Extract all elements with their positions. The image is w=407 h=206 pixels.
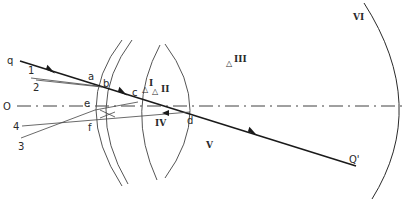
label-Q-prime: Q' <box>349 154 360 165</box>
main-ray <box>20 61 356 166</box>
region-VI: VI <box>352 12 364 22</box>
label-b: b <box>103 78 109 89</box>
triangle-icon: △ <box>226 59 233 68</box>
region-III: III <box>234 54 247 64</box>
label-a: a <box>88 71 94 82</box>
lens-front-arc <box>142 45 160 180</box>
label-c: c <box>132 87 138 98</box>
label-1: 1 <box>28 65 34 76</box>
region-V: V <box>205 140 214 150</box>
inner-ray-cross-2 <box>100 112 115 118</box>
region-II: II <box>161 84 169 94</box>
retina-arc <box>364 3 399 199</box>
reflected-ray-3 <box>21 110 95 138</box>
region-IV: IV <box>155 118 167 128</box>
label-f: f <box>88 122 92 133</box>
arrow-icon <box>162 110 169 116</box>
optical-diagram: q Q' O a b c d e f 1 2 3 4 △ I △ II △ II… <box>0 0 407 206</box>
label-d: d <box>187 115 193 126</box>
inner-ray-cross-1 <box>100 110 115 117</box>
triangle-icon: △ <box>152 87 159 96</box>
cornea-back-arc <box>106 40 132 184</box>
label-2: 2 <box>33 82 39 93</box>
label-3: 3 <box>18 141 24 152</box>
label-O: O <box>3 101 11 112</box>
label-4: 4 <box>13 121 19 132</box>
label-e: e <box>84 98 90 109</box>
label-q: q <box>7 55 13 66</box>
triangle-icon: △ <box>142 85 149 94</box>
